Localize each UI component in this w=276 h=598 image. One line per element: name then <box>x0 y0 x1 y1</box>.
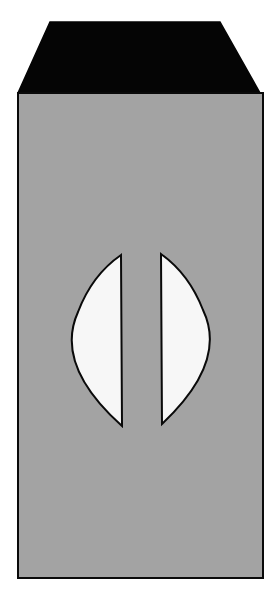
black-cap-trapezoid <box>18 22 260 93</box>
diagram-canvas <box>0 0 276 598</box>
gray-body-rectangle <box>18 93 263 578</box>
